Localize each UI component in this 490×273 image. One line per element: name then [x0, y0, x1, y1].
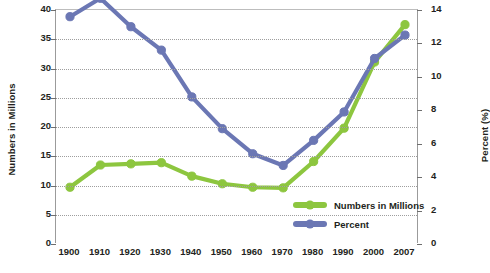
- series-1: [66, 21, 409, 192]
- x-axis-tick-label: 1990: [333, 246, 354, 257]
- x-axis-tick-label: 1930: [150, 246, 171, 257]
- gridline: [56, 69, 417, 70]
- legend-swatch-icon: [293, 202, 327, 208]
- data-point: [188, 172, 196, 180]
- y-axis-left-ticks: 4035302520151050: [21, 0, 51, 273]
- data-point: [218, 125, 226, 133]
- y-axis-right-tick-mark: [417, 77, 422, 78]
- data-point: [279, 161, 287, 169]
- y-axis-right-ticks: 14121086420: [431, 0, 461, 273]
- legend-item-label: Numbers in Millions: [334, 200, 424, 211]
- y-axis-right-tick-label: 8: [431, 104, 436, 114]
- y-axis-right-tick-label: 4: [431, 171, 436, 181]
- legend-marker-icon: [306, 201, 315, 210]
- data-point: [401, 21, 409, 29]
- x-axis-tick-label: 1910: [89, 246, 110, 257]
- data-point: [66, 183, 74, 191]
- data-point: [340, 124, 348, 132]
- y-axis-left-tick-label: 40: [40, 4, 51, 14]
- x-axis-tick-label: 1970: [272, 246, 293, 257]
- y-axis-left-tick-label: 30: [40, 63, 51, 73]
- x-axis-tick-label: 1900: [58, 246, 79, 257]
- y-axis-left-tick-label: 25: [40, 92, 51, 102]
- y-axis-left-tick-mark: [51, 10, 56, 11]
- y-axis-right-tick-label: 12: [431, 37, 442, 47]
- data-point: [401, 31, 409, 39]
- data-point: [370, 54, 378, 62]
- y-axis-right-tick-mark: [417, 144, 422, 145]
- y-axis-left-tick-label: 10: [40, 180, 51, 190]
- x-axis-tick-label: 1960: [241, 246, 262, 257]
- y-axis-left-tick-label: 15: [40, 150, 51, 160]
- x-axis-tick-label: 2007: [393, 246, 414, 257]
- legend-item-label: Percent: [334, 219, 369, 230]
- data-point: [340, 108, 348, 116]
- y-axis-left-tick-label: 5: [46, 209, 51, 219]
- x-axis-tick-label: 2000: [363, 246, 384, 257]
- data-point: [157, 159, 165, 167]
- data-point: [66, 13, 74, 21]
- gridline: [56, 156, 417, 157]
- gridline: [56, 127, 417, 128]
- legend-marker-icon: [306, 220, 315, 229]
- y-axis-right-tick-label: 10: [431, 71, 442, 81]
- data-point: [127, 23, 135, 31]
- y-axis-right-tick-label: 6: [431, 138, 436, 148]
- y-axis-left-tick-label: 35: [40, 33, 51, 43]
- y-axis-right-title: Percent (%): [479, 76, 490, 196]
- x-axis-tick-label: 1940: [180, 246, 201, 257]
- y-axis-left-title: Numbers in Millions: [6, 65, 17, 195]
- x-axis-tick-label: 1980: [302, 246, 323, 257]
- x-axis-tick-label: 1920: [119, 246, 140, 257]
- x-axis-ticks: 1900191019201930194019501960197019801990…: [55, 246, 418, 266]
- data-point: [96, 161, 104, 169]
- series-2: [66, 0, 409, 170]
- y-axis-left-tick-label: 0: [46, 238, 51, 248]
- gridline: [56, 98, 417, 99]
- data-point: [218, 180, 226, 188]
- y-axis-right-tick-mark: [417, 177, 422, 178]
- data-point: [249, 183, 257, 191]
- y-axis-left-tick-label: 20: [40, 121, 51, 131]
- y-axis-right-tick-mark: [417, 43, 422, 44]
- series-line: [70, 25, 405, 188]
- x-axis-tick-label: 1950: [211, 246, 232, 257]
- legend-swatch-icon: [293, 221, 327, 227]
- legend-item[interactable]: Percent: [293, 217, 424, 231]
- y-axis-right-tick-mark: [417, 10, 422, 11]
- gridline: [56, 186, 417, 187]
- legend-item[interactable]: Numbers in Millions: [293, 198, 424, 212]
- series-line: [70, 0, 405, 165]
- data-point: [310, 136, 318, 144]
- y-axis-right-tick-mark: [417, 244, 422, 245]
- y-axis-right-tick-label: 14: [431, 4, 442, 14]
- y-axis-right-tick-mark: [417, 110, 422, 111]
- data-point: [157, 46, 165, 54]
- data-point: [310, 157, 318, 165]
- y-axis-left-tick-mark: [51, 244, 56, 245]
- data-point: [127, 160, 135, 168]
- chart-legend: Numbers in MillionsPercent: [293, 198, 424, 231]
- y-axis-right-tick-label: 2: [431, 205, 436, 215]
- gridline: [56, 39, 417, 40]
- y-axis-right-tick-label: 0: [431, 238, 436, 248]
